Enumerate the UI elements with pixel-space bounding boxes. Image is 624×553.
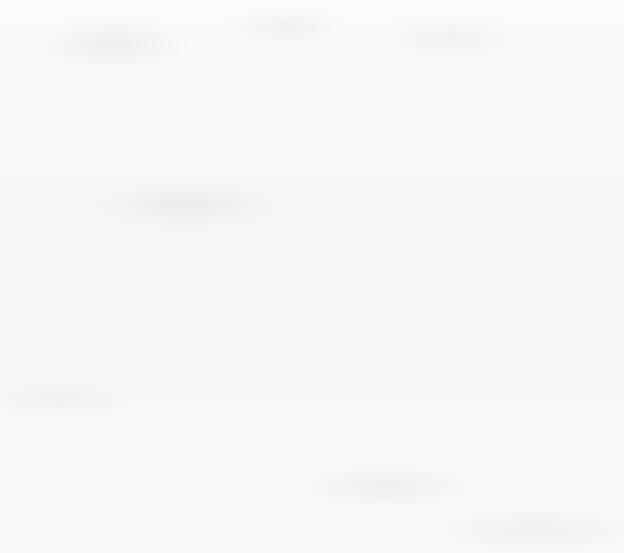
bar-value-volatile-organic-compounds: 71% [372,127,441,148]
x-label-line-3: (CO) [58,508,197,531]
x-axis-label-particulates: Particulates [476,462,615,485]
bar-value-carbon-dioxide: 47% [232,229,301,250]
x-label-formula-prefix: (CO [241,508,278,530]
bar-value-particulates: 86% [511,64,580,85]
bar-particulates[interactable] [511,90,580,453]
y-axis-tick-30: 30% [0,316,58,337]
y-axis-tick-80: 80% [0,105,58,126]
y-axis-tick-60: 60% [0,190,58,211]
x-label-formula-suffix: ) [285,508,292,530]
bar-carbon-dioxide[interactable] [232,255,301,453]
y-axis-tick-0: 0% [0,443,58,464]
bar-carbon-monoxide[interactable] [93,444,162,453]
x-label-line-1: Volatile organic [331,462,483,485]
y-axis-tick-70: 70% [0,147,58,168]
y-axis-tick-100: 100% [0,21,58,42]
x-axis-label-carbon-dioxide: Carbon dioxide (CO2) [197,462,336,532]
x-axis-label-carbon-monoxide: Carbon monoxide (CO) [58,462,197,532]
x-label-line-3: (CO2) [197,508,336,531]
x-label-line-1: Carbon [58,462,197,485]
bar-value-carbon-monoxide: 2% [93,418,162,439]
bar-volatile-organic-compounds[interactable] [372,153,441,453]
y-axis-tick-50: 50% [0,232,58,253]
x-label-line-2: compounds [331,485,483,508]
y-axis-tick-20: 20% [0,359,58,380]
x-label-line-2: monoxide [58,485,197,508]
x-axis-label-volatile-organic-compounds: Volatile organic compounds (VOCs) [331,462,483,532]
y-axis-tick-90: 90% [0,63,58,84]
x-label-subscript: 2 [278,518,286,533]
x-label-line-3: (VOCs) [331,508,483,531]
x-label-line-1: Particulates [476,462,615,485]
y-axis-tick-40: 40% [0,274,58,295]
x-label-line-1: Carbon [197,462,336,485]
x-label-line-2: dioxide [197,485,336,508]
y-axis-tick-10: 10% [0,401,58,422]
bar-chart: 100% 90% 80% 70% 60% 50% 40% 30% 20% 10%… [0,0,624,553]
